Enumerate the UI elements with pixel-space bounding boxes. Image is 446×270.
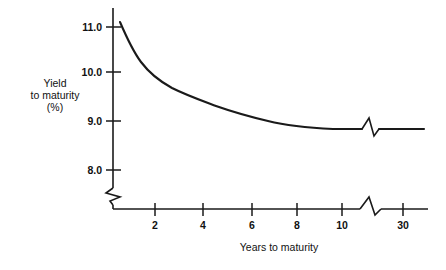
y-tick-label-10: 10.0 <box>82 66 103 78</box>
y-tick-label-8: 8.0 <box>87 164 102 176</box>
x-tick-label-10: 10 <box>336 219 348 231</box>
y-axis-title-line-3: (%) <box>47 101 63 113</box>
x-axis-break-icon <box>360 197 381 215</box>
x-tick-label-8: 8 <box>294 219 300 231</box>
yield-curve-path-left <box>120 22 362 129</box>
x-tick-label-6: 6 <box>249 219 255 231</box>
x-axis-group: 2 4 6 8 10 30 <box>113 197 428 231</box>
y-axis-break-icon <box>106 188 120 205</box>
x-tick-label-4: 4 <box>200 219 206 231</box>
x-tick-label-30: 30 <box>397 219 409 231</box>
y-tick-label-11: 11.0 <box>82 21 102 33</box>
y-axis-title-line-1: Yield <box>44 77 67 89</box>
y-tick-label-9: 9.0 <box>87 115 102 127</box>
chart-canvas: 11.0 10.0 9.0 8.0 Yield to maturity (%) <box>0 0 446 270</box>
x-tick-label-2: 2 <box>152 219 158 231</box>
data-series-yield-curve <box>120 22 424 136</box>
yield-curve-chart: 11.0 10.0 9.0 8.0 Yield to maturity (%) <box>0 0 446 270</box>
x-axis-title: Years to maturity <box>240 241 319 253</box>
y-axis-title-line-2: to maturity <box>30 89 80 101</box>
curve-break-icon <box>362 118 379 136</box>
y-axis-title: Yield to maturity (%) <box>30 77 80 113</box>
y-axis-group: 11.0 10.0 9.0 8.0 <box>82 8 121 209</box>
